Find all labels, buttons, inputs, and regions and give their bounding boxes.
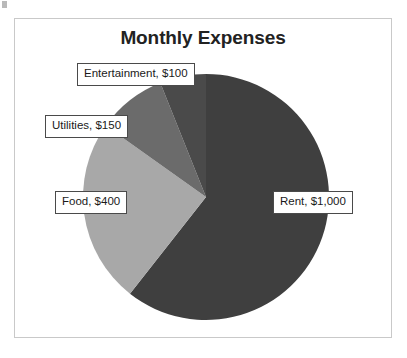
data-label-entertainment: Entertainment, $100 — [77, 63, 195, 86]
page-corner-artifact — [2, 1, 7, 8]
chart-frame: Monthly Expenses Entertainment, $100 Uti… — [14, 18, 392, 338]
pie-chart — [15, 19, 393, 339]
data-label-rent: Rent, $1,000 — [273, 191, 353, 214]
data-label-utilities: Utilities, $150 — [45, 115, 128, 138]
data-label-food: Food, $400 — [55, 191, 127, 214]
